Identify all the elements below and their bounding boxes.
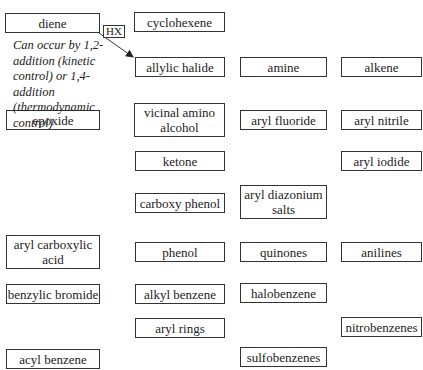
node-phenol: phenol xyxy=(135,242,225,262)
node-aryl-fluoride: aryl fluoride xyxy=(240,110,327,130)
node-carboxy-phenol: carboxy phenol xyxy=(135,193,225,213)
node-label: diene xyxy=(38,16,66,31)
node-label: halobenzene xyxy=(251,286,316,301)
node-label: ketone xyxy=(163,154,198,169)
node-label: phenol xyxy=(162,245,197,260)
node-label: aryl carboxylic acid xyxy=(7,237,99,267)
node-label: cyclohexene xyxy=(147,15,212,30)
node-aryl-carboxylic-acid: aryl carboxylic acid xyxy=(6,235,100,269)
node-cyclohexene: cyclohexene xyxy=(134,12,225,32)
node-label: aryl nitrile xyxy=(354,113,409,128)
regiochemistry-note: Can occur by 1,2-addition (kinetic contr… xyxy=(13,38,123,131)
node-alkyl-benzene: alkyl benzene xyxy=(135,284,225,304)
node-label: carboxy phenol xyxy=(140,196,221,211)
node-label: amine xyxy=(268,60,300,75)
node-aryl-diazonium-salts: aryl diazonium salts xyxy=(240,185,327,219)
node-label: aryl fluoride xyxy=(251,113,316,128)
node-diene: diene xyxy=(5,13,100,33)
node-quinones: quinones xyxy=(240,242,327,262)
node-acyl-benzene: acyl benzene xyxy=(6,349,100,369)
node-label: acyl benzene xyxy=(19,352,86,367)
node-benzylic-bromide: benzylic bromide xyxy=(6,284,100,304)
node-aryl-nitrile: aryl nitrile xyxy=(341,110,422,130)
node-label: benzylic bromide xyxy=(8,287,99,302)
node-aryl-rings: aryl rings xyxy=(135,318,225,338)
node-aryl-iodide: aryl iodide xyxy=(341,151,422,171)
node-label: aryl iodide xyxy=(354,154,410,169)
node-ketone: ketone xyxy=(135,151,225,171)
node-label: aryl diazonium salts xyxy=(241,187,326,217)
node-label: alkene xyxy=(365,60,399,75)
node-label: alkyl benzene xyxy=(144,287,216,302)
node-label: sulfobenzenes xyxy=(247,350,321,365)
node-label: anilines xyxy=(361,245,401,260)
node-label: quinones xyxy=(260,245,307,260)
node-nitrobenzenes: nitrobenzenes xyxy=(341,317,422,337)
node-halobenzene: halobenzene xyxy=(240,283,327,303)
node-label: nitrobenzenes xyxy=(345,320,417,335)
node-alkene: alkene xyxy=(341,57,422,77)
node-label: aryl rings xyxy=(155,321,204,336)
node-amine: amine xyxy=(240,57,327,77)
reagent-hx-label: HX xyxy=(103,25,125,38)
node-sulfobenzenes: sulfobenzenes xyxy=(240,347,327,367)
node-anilines: anilines xyxy=(341,242,422,262)
node-label: vicinal amino alcohol xyxy=(135,105,224,135)
node-vicinal-amino-alcohol: vicinal amino alcohol xyxy=(134,103,225,137)
node-label: allylic halide xyxy=(146,60,214,75)
node-allylic-halide: allylic halide xyxy=(135,57,225,77)
